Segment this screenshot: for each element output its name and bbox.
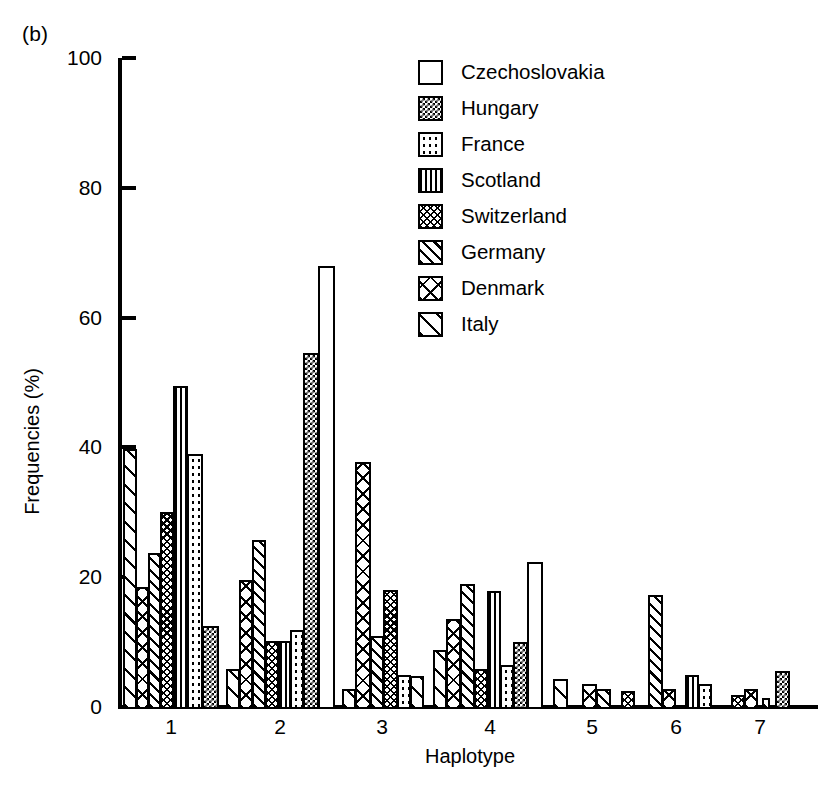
legend-swatch-icon	[418, 60, 443, 85]
legend-swatch-icon	[418, 312, 443, 337]
y-tick-mark	[122, 56, 136, 60]
legend-item-hungary: Hungary	[418, 90, 605, 126]
bar	[239, 580, 253, 709]
bar	[685, 675, 699, 709]
legend-swatch-icon	[418, 168, 443, 193]
legend-label: Czechoslovakia	[461, 62, 605, 83]
legend-label: Scotland	[461, 170, 541, 191]
legend-item-czechoslovakia: Czechoslovakia	[418, 54, 605, 90]
bar	[446, 619, 461, 709]
y-axis-line	[118, 58, 122, 709]
bar	[582, 684, 597, 709]
y-axis-label: Frequencies (%)	[21, 342, 44, 542]
bar	[698, 684, 712, 709]
legend-label: Denmark	[461, 278, 544, 299]
bar	[553, 679, 568, 709]
legend-swatch-icon	[418, 240, 443, 265]
bar	[202, 626, 219, 709]
bar	[762, 698, 770, 709]
bar	[355, 462, 371, 709]
y-tick-label: 100	[46, 47, 102, 68]
bar	[474, 669, 488, 709]
bar	[596, 689, 611, 709]
legend-item-denmark: Denmark	[418, 270, 605, 306]
legend-item-scotland: Scotland	[418, 162, 605, 198]
bar	[397, 675, 411, 709]
legend-item-france: France	[418, 126, 605, 162]
bar	[342, 689, 356, 709]
bar	[370, 636, 384, 709]
bar	[662, 689, 676, 709]
y-tick-label: 0	[46, 696, 102, 717]
legend-swatch-icon	[418, 96, 443, 121]
bar	[460, 584, 475, 709]
bar	[621, 691, 635, 709]
bar	[383, 590, 398, 709]
figure-panel: (b) 020406080100 1234567 Frequencies (%)…	[0, 0, 835, 797]
legend-swatch-icon	[418, 204, 443, 229]
bar	[173, 386, 188, 709]
y-tick-label: 80	[46, 177, 102, 198]
x-tick-label: 3	[362, 716, 402, 737]
bar	[252, 540, 266, 709]
bar	[187, 454, 203, 709]
y-tick-mark	[122, 316, 136, 320]
bar	[123, 449, 137, 709]
bar	[775, 671, 790, 709]
bar	[410, 676, 424, 709]
x-tick-label: 1	[151, 716, 191, 737]
x-tick-label: 4	[470, 716, 510, 737]
bar	[303, 353, 319, 709]
y-tick-mark	[122, 186, 136, 190]
bar	[513, 642, 528, 709]
bar	[500, 665, 514, 709]
legend-label: Switzerland	[461, 206, 567, 227]
legend-swatch-icon	[418, 132, 443, 157]
bar	[648, 595, 663, 709]
x-axis-label: Haplotype	[280, 745, 660, 768]
y-tick-label-wrap: 100	[46, 47, 102, 68]
y-tick-label: 40	[46, 436, 102, 457]
legend: CzechoslovakiaHungaryFranceScotlandSwitz…	[418, 54, 605, 342]
legend-item-switzerland: Switzerland	[418, 198, 605, 234]
legend-label: France	[461, 134, 525, 155]
legend-item-italy: Italy	[418, 306, 605, 342]
bar	[318, 266, 335, 709]
y-tick-label-wrap: 80	[46, 177, 102, 198]
x-tick-label: 7	[740, 716, 780, 737]
bar	[265, 641, 279, 709]
legend-label: Italy	[461, 314, 499, 335]
y-tick-label: 60	[46, 307, 102, 328]
x-tick-label: 6	[656, 716, 696, 737]
y-tick-label-wrap: 0	[46, 696, 102, 717]
legend-label: Hungary	[461, 98, 539, 119]
bar	[744, 689, 758, 709]
y-tick-label: 20	[46, 566, 102, 587]
bar	[433, 650, 447, 709]
bar	[731, 695, 745, 709]
x-tick-label: 5	[572, 716, 612, 737]
y-tick-label-wrap: 60	[46, 307, 102, 328]
legend-item-germany: Germany	[418, 234, 605, 270]
bar	[226, 669, 240, 709]
bar	[487, 591, 501, 709]
x-tick-label: 2	[260, 716, 300, 737]
bar	[527, 562, 543, 709]
y-tick-label-wrap: 40	[46, 436, 102, 457]
bar	[290, 630, 304, 709]
y-tick-label-wrap: 20	[46, 566, 102, 587]
legend-label: Germany	[461, 242, 545, 263]
bar	[160, 512, 174, 709]
legend-swatch-icon	[418, 276, 443, 301]
